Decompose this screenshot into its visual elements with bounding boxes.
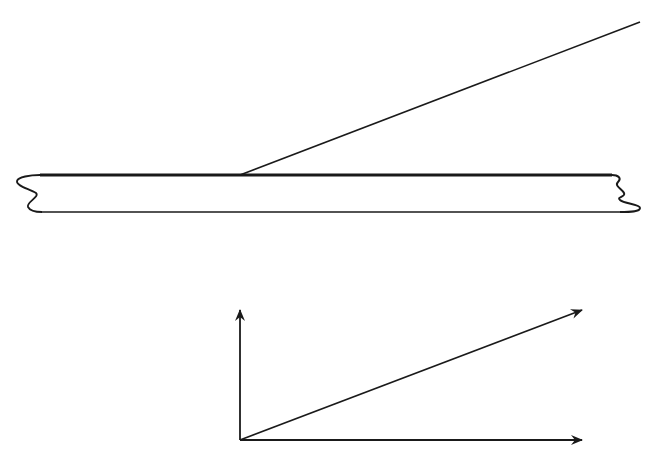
plate-with-ray <box>17 22 640 212</box>
plate-right-break <box>612 175 640 212</box>
incident-ray <box>240 22 640 175</box>
plate-left-break <box>17 175 42 212</box>
diagonal-vector-arrow <box>240 310 582 440</box>
vector-diagram <box>240 310 582 440</box>
diagram-canvas <box>0 0 663 464</box>
